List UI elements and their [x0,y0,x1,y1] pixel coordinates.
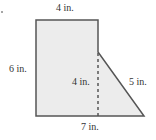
slant-side-label: 5 in. [129,77,147,87]
composite-shape-figure: 4 in. 6 in. 4 in. 5 in. 7 in. [0,0,156,140]
left-side-label: 6 in. [9,64,27,74]
inner-height-label: 4 in. [72,77,90,87]
top-side-label: 4 in. [56,3,74,13]
bullet-mark [1,11,3,13]
bottom-side-label: 7 in. [81,122,99,132]
composite-shape-outline [36,20,144,116]
